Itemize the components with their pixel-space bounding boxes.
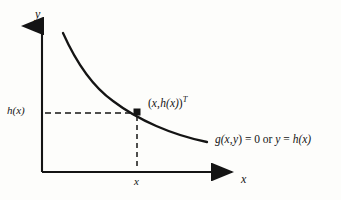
curve-equation-label: g(x,y) = 0 or y = h(x) [215, 134, 311, 146]
axis-label-y: y [35, 8, 40, 20]
curve-label-eq-zero: ) = 0 or [238, 133, 275, 145]
curve-path [63, 33, 207, 142]
curve-label-h: h(x) [293, 133, 312, 145]
curve-label-equals: = [280, 133, 292, 145]
tick-label-y: h(x) [7, 105, 25, 116]
figure-container: y x x h(x) (x,h(x))T g(x,y) = 0 or y = h… [0, 0, 341, 200]
point-marker-icon [134, 109, 141, 116]
tick-label-x: x [134, 176, 139, 187]
curve-label-g: g(x [215, 133, 230, 145]
point-label-transpose: T [183, 95, 188, 104]
axis-label-x: x [241, 173, 246, 185]
point-coordinate-label: (x,h(x))T [148, 98, 187, 110]
point-label-h: h(x) [160, 97, 179, 109]
